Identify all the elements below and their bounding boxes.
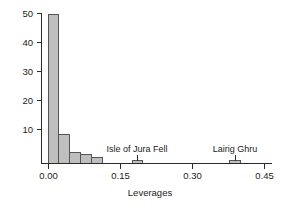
plot-background [0,0,282,213]
histogram-bar [70,152,81,164]
x-axis-title: Leverages [128,187,173,198]
histogram-bar [48,15,59,164]
y-tick-label-30: 30 [22,66,33,77]
x-tick-label-1: 0.15 [111,170,130,181]
y-tick-label-50: 50 [22,8,33,19]
histogram-figure: 50 40 30 20 10 [0,0,282,213]
annotation-label-lairig-ghru: Lairig Ghru [213,144,258,154]
y-tick-label-40: 40 [22,37,33,48]
x-tick-label-2: 0.30 [183,170,202,181]
x-tick-label-0: 0.00 [39,170,58,181]
annotation-label-isle-of-jura-fell: Isle of Jura Fell [106,144,167,154]
histogram-bar [80,155,91,164]
y-tick-label-20: 20 [22,95,33,106]
x-tick-label-3: 0.45 [255,170,274,181]
histogram-bar [91,158,102,164]
histogram-bar [59,135,70,164]
y-tick-label-10: 10 [22,124,33,135]
histogram-svg: 50 40 30 20 10 [0,0,282,213]
